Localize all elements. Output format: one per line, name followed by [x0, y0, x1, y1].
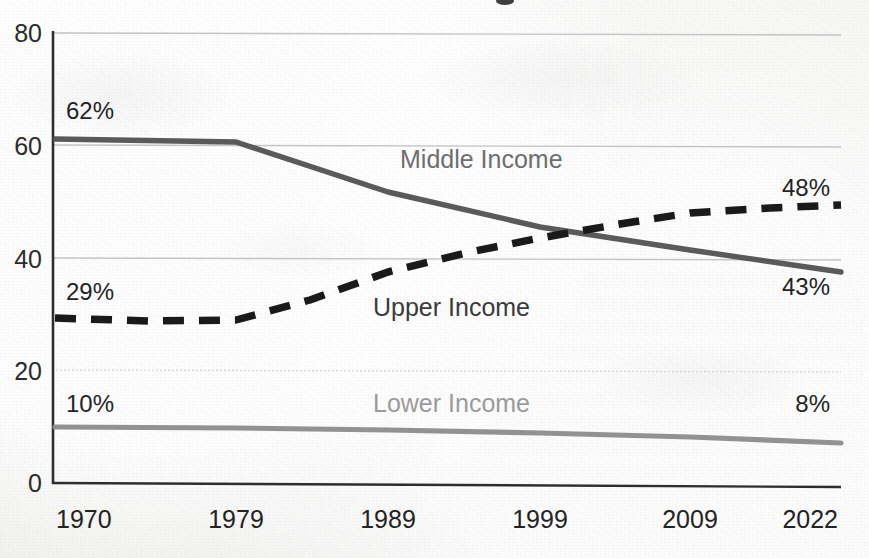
- x-tick-label-1999: 1999: [512, 505, 568, 533]
- y-tick-label-0: 0: [28, 469, 42, 497]
- x-tick-label-1979: 1979: [208, 505, 264, 533]
- series-label-upper-income: Upper Income: [373, 293, 530, 321]
- x-tick-label-1989: 1989: [360, 505, 416, 533]
- x-tick-label-2009: 2009: [662, 505, 718, 533]
- y-axis-tick-labels: 80 60 40 20 0: [14, 19, 42, 497]
- label-upper-start: 29%: [66, 278, 114, 305]
- label-lower-start: 10%: [66, 390, 114, 417]
- line-chart: 80 60 40 20 0 1970 1979 1989 1999 2009 2…: [0, 0, 869, 558]
- gridline-20: [52, 370, 841, 372]
- title-glyph-fragment: [496, 0, 514, 5]
- chart-svg: 80 60 40 20 0 1970 1979 1989 1999 2009 2…: [0, 0, 869, 558]
- series-label-middle-income: Middle Income: [400, 145, 563, 173]
- label-upper-end: 48%: [782, 174, 830, 201]
- series-lower-income-line: [55, 427, 841, 443]
- cropped-title-sliver: [496, 0, 514, 5]
- series-inline-labels: Middle Income Upper Income Lower Income: [373, 145, 563, 417]
- x-tick-label-2022: 2022: [782, 505, 838, 533]
- label-middle-start: 62%: [66, 97, 114, 124]
- x-axis-tick-labels: 1970 1979 1989 1999 2009 2022: [56, 505, 838, 533]
- y-tick-label-80: 80: [14, 19, 42, 47]
- series-lower-income: [55, 427, 841, 443]
- y-tick-label-40: 40: [14, 245, 42, 273]
- series-label-lower-income: Lower Income: [373, 389, 530, 417]
- y-tick-label-20: 20: [14, 357, 42, 385]
- label-lower-end: 8%: [795, 390, 830, 417]
- label-middle-end: 43%: [782, 273, 830, 300]
- gridline-80: [52, 33, 841, 35]
- x-axis-line: [52, 483, 841, 487]
- y-tick-label-60: 60: [14, 132, 42, 160]
- x-tick-label-1970: 1970: [56, 505, 112, 533]
